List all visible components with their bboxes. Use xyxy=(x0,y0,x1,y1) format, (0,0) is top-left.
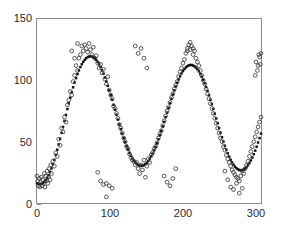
data-point xyxy=(226,178,230,182)
data-point xyxy=(256,125,260,129)
data-point xyxy=(183,58,187,62)
data-point xyxy=(70,49,74,53)
data-point xyxy=(226,157,230,161)
data-point xyxy=(165,180,169,184)
data-point xyxy=(191,53,195,57)
data-point xyxy=(52,164,56,168)
data-point xyxy=(240,186,244,190)
data-point xyxy=(253,74,257,78)
data-point xyxy=(136,51,140,55)
data-point xyxy=(138,172,142,176)
data-point xyxy=(255,69,259,73)
data-point xyxy=(99,179,103,183)
y-tick-0 xyxy=(37,204,41,205)
data-point xyxy=(65,103,69,107)
data-point xyxy=(55,155,59,159)
chart-figure: 150 100 50 0 0 100 200 300 xyxy=(0,0,281,242)
y-tick-label-150: 150 xyxy=(2,13,32,24)
data-point xyxy=(232,188,236,192)
data-point xyxy=(106,75,110,79)
data-point xyxy=(171,177,175,181)
y-tick-label-50: 50 xyxy=(2,137,32,148)
data-point xyxy=(224,153,228,157)
data-point xyxy=(255,130,259,134)
data-point xyxy=(84,47,88,51)
data-point xyxy=(162,174,166,178)
data-point xyxy=(258,55,262,59)
data-point xyxy=(253,153,255,155)
data-point xyxy=(255,145,257,147)
data-point xyxy=(249,150,253,154)
data-point xyxy=(96,170,100,174)
data-point xyxy=(78,53,82,57)
data-point xyxy=(160,130,162,132)
data-point xyxy=(246,159,250,163)
series-observed-data xyxy=(35,40,263,198)
data-point xyxy=(51,159,55,163)
data-point xyxy=(66,108,68,110)
data-point xyxy=(67,98,71,102)
data-point xyxy=(81,63,83,65)
data-point xyxy=(77,56,81,60)
data-point xyxy=(196,60,200,64)
data-point xyxy=(110,186,114,190)
plot-area xyxy=(36,18,262,204)
data-point xyxy=(257,141,259,143)
x-tick-label-100: 100 xyxy=(96,208,124,219)
data-point xyxy=(79,66,81,68)
data-point xyxy=(227,161,231,165)
data-point xyxy=(181,61,185,65)
data-point xyxy=(76,42,80,46)
data-point xyxy=(91,45,95,49)
data-point xyxy=(143,175,147,179)
data-point xyxy=(139,47,143,51)
data-point xyxy=(259,115,263,119)
data-point xyxy=(194,56,198,60)
data-point xyxy=(229,164,233,168)
x-tick-label-200: 200 xyxy=(169,208,197,219)
y-tick-label-100: 100 xyxy=(2,75,32,86)
data-point xyxy=(109,94,111,96)
data-point xyxy=(206,92,210,96)
data-point xyxy=(260,132,262,134)
data-point xyxy=(197,64,201,68)
data-point xyxy=(70,93,74,97)
data-point xyxy=(142,56,146,60)
data-point xyxy=(258,120,262,124)
x-tick-label-0: 0 xyxy=(23,208,51,219)
data-point xyxy=(87,42,91,46)
data-layer xyxy=(37,19,261,203)
data-point xyxy=(142,158,146,162)
data-point xyxy=(63,115,67,119)
data-point xyxy=(141,168,145,172)
data-point xyxy=(237,191,241,195)
data-point xyxy=(122,137,124,139)
data-point xyxy=(168,184,172,188)
data-point xyxy=(252,140,256,144)
data-point xyxy=(250,145,254,149)
data-point xyxy=(174,167,178,171)
data-point xyxy=(235,181,239,185)
data-point xyxy=(258,137,260,139)
data-point xyxy=(145,164,149,168)
data-point xyxy=(178,70,182,74)
data-point xyxy=(180,66,184,70)
data-point xyxy=(248,155,252,159)
data-point xyxy=(118,123,120,125)
data-point xyxy=(104,195,108,199)
data-point xyxy=(74,64,78,68)
data-point xyxy=(72,86,74,88)
data-point xyxy=(73,56,77,60)
data-point xyxy=(45,169,49,173)
data-point xyxy=(136,167,140,171)
x-tick-label-300: 300 xyxy=(242,208,270,219)
data-point xyxy=(108,89,110,91)
data-point xyxy=(254,149,256,151)
data-point xyxy=(148,161,152,165)
data-point xyxy=(133,44,137,48)
data-point xyxy=(145,66,149,70)
data-point xyxy=(223,169,227,173)
data-point xyxy=(50,172,54,176)
data-point xyxy=(253,135,257,139)
data-point xyxy=(254,60,258,64)
